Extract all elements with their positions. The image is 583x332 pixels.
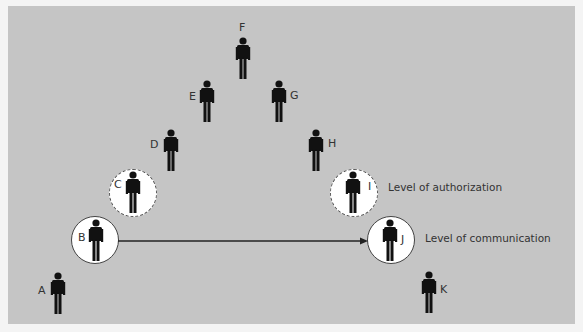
- person-label-k: K: [440, 284, 447, 296]
- person-label-i: I: [368, 181, 371, 193]
- diagram-panel: [8, 6, 575, 324]
- person-label-j: J: [401, 234, 404, 246]
- person-label-g: G: [290, 90, 299, 102]
- person-label-a: A: [38, 285, 46, 297]
- person-icon-g: [271, 80, 287, 122]
- communication-legend: Level of communication: [425, 232, 551, 244]
- person-icon-c: [125, 171, 141, 213]
- person-icon-k: [421, 271, 437, 313]
- person-icon-i: [345, 171, 361, 213]
- communication-arrow: [118, 236, 368, 246]
- person-label-c: C: [114, 179, 122, 191]
- authorization-legend: Level of authorization: [388, 181, 502, 193]
- person-icon-f: [235, 37, 251, 79]
- person-icon-h: [308, 129, 324, 171]
- person-label-f: F: [239, 22, 245, 34]
- person-label-d: D: [150, 139, 158, 151]
- person-label-h: H: [328, 138, 336, 150]
- person-icon-j: [382, 219, 398, 261]
- person-icon-b: [88, 219, 104, 261]
- person-icon-e: [199, 80, 215, 122]
- person-label-b: B: [78, 232, 86, 244]
- person-icon-a: [50, 272, 66, 314]
- person-label-e: E: [189, 91, 196, 103]
- person-icon-d: [163, 129, 179, 171]
